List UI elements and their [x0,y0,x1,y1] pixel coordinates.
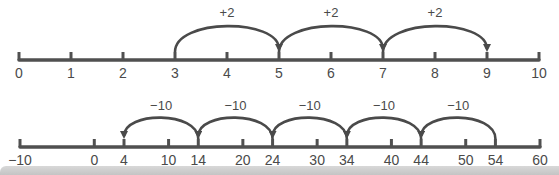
jump-arrow [273,118,347,139]
jump-label: −10 [150,98,172,113]
tick-label: 10 [531,65,547,81]
jump-arrow [198,118,272,139]
jump-label: −10 [224,98,246,113]
jump-label: +2 [428,5,443,20]
tick-label: 5 [275,65,283,81]
jump-arrow [347,118,421,139]
number-line-bottom: −10041014202430344044505460−10−10−10−10−… [8,98,548,168]
jump-label: −10 [447,98,469,113]
jump-arrow [421,118,495,139]
tick-label: 4 [223,65,231,81]
number-lines-figure: 012345678910+2+2+2 −10041014202430344044… [0,0,559,175]
tick-label: 3 [171,65,179,81]
jump-label: −10 [373,98,395,113]
tick-label: 6 [327,65,335,81]
jump-arrow [124,118,198,139]
jump-label: −10 [299,98,321,113]
tick-label: 8 [431,65,439,81]
jump-arrow [175,26,279,52]
page-edge-shadow [0,166,559,175]
number-line-top: 012345678910+2+2+2 [15,5,547,81]
jump-label: +2 [220,5,235,20]
jump-label: +2 [324,5,339,20]
tick-label: 7 [379,65,387,81]
jump-arrow [383,26,487,52]
tick-label: 9 [483,65,491,81]
tick-label: 0 [15,65,23,81]
tick-label: 2 [119,65,127,81]
number-lines-canvas: 012345678910+2+2+2 −10041014202430344044… [0,0,559,175]
jump-arrow [279,26,383,52]
tick-label: 1 [67,65,75,81]
